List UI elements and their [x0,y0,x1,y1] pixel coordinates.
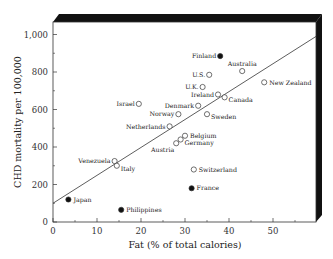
point-u-k: U.K. [185,83,205,90]
point-label: New Zealand [269,79,311,86]
point-label: Germany [185,139,215,147]
point-u-s: U.S. [192,71,211,78]
x-tick-label: 50 [268,226,279,236]
point-label: U.K. [185,83,198,90]
open-circle-marker [114,163,119,168]
point-label: Italy [121,165,136,173]
open-circle-marker [174,141,179,146]
open-circle-marker [207,72,212,77]
point-netherlands: Netherlands [126,123,172,130]
frame-top-shadow [53,14,322,22]
x-tick-label: 0 [50,226,55,236]
point-label: Ireland [191,91,214,98]
filled-circle-marker [119,207,124,212]
point-label: Switzerland [199,166,237,173]
point-label: Israel [117,100,135,107]
point-label: Philippines [126,206,161,214]
scatter-chart: 02004006008001,000 01020304050 FinlandAu… [0,0,333,259]
filled-circle-marker [66,197,71,202]
open-circle-marker [200,84,205,89]
x-tick-label: 30 [180,226,191,236]
point-new-zealand: New Zealand [262,79,312,86]
x-tick-label: 20 [136,226,147,236]
y-tick-label: 1,000 [24,30,48,40]
open-circle-marker [167,124,172,129]
point-label: Norway [149,110,174,118]
y-axis-title: CHD mortality per 100,000 [12,56,23,188]
frame-right-shadow [316,14,322,222]
open-circle-marker [176,112,181,117]
point-label: Canada [229,96,253,103]
plot-area [53,22,316,222]
point-label: Sweden [211,113,236,120]
y-axis: 02004006008001,000 [24,30,57,228]
y-tick-label: 600 [32,105,48,115]
point-label: Australia [227,60,257,67]
point-label: Venezuela [77,157,111,164]
x-axis-title: Fat (% of total calories) [128,239,241,250]
y-tick-label: 800 [32,67,48,77]
open-circle-marker [262,80,267,85]
filled-circle-marker [218,53,223,58]
point-label: Finland [192,52,216,59]
filled-circle-marker [189,186,194,191]
y-tick-label: 200 [32,180,48,190]
open-circle-marker [196,103,201,108]
y-tick-label: 400 [32,142,48,152]
point-switzerland: Switzerland [191,166,237,173]
x-tick-label: 10 [92,226,103,236]
point-label: Austria [150,146,174,153]
x-tick-label: 40 [224,226,235,236]
point-label: Denmark [165,102,195,109]
open-circle-marker [191,167,196,172]
point-label: France [197,184,220,191]
point-label: U.S. [192,71,205,78]
y-tick-label: 0 [43,217,48,227]
point-label: Netherlands [126,123,166,130]
open-circle-marker [215,92,220,97]
open-circle-marker [136,101,141,106]
open-circle-marker [240,68,245,73]
point-label: Japan [72,196,91,204]
open-circle-marker [204,112,209,117]
open-circle-marker [178,137,183,142]
open-circle-marker [222,95,227,100]
